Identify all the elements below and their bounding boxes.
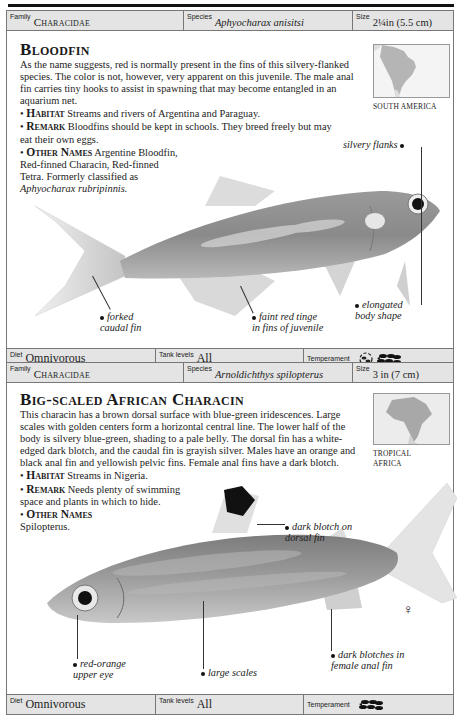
annotation-faint-red-tinge: faint red tinge in fins of juvenile xyxy=(252,311,323,333)
species-label: Species xyxy=(187,365,212,372)
family-label: Family xyxy=(10,365,31,372)
south-america-map-icon xyxy=(374,45,449,97)
diet-cell: Diet Omnivorous xyxy=(7,695,156,714)
species-cell: Species Arnoldichthys spilopterus xyxy=(184,363,353,382)
family-value: Characidae xyxy=(34,16,90,28)
annotation-silvery-flanks: silvery flanks xyxy=(343,139,407,150)
top-rule xyxy=(8,4,454,7)
leader-line xyxy=(203,601,204,669)
species-label: Species xyxy=(187,13,212,20)
species-card-big-scaled-african-characin: Family Characidae Species Arnoldichthys … xyxy=(6,362,454,715)
range-map-south-america xyxy=(373,44,450,98)
habitat-label: Habitat xyxy=(26,107,64,119)
tank-levels-label: Tank levels xyxy=(159,697,194,704)
habitat-text: Streams and rivers of Argentina and Para… xyxy=(67,108,260,119)
species-cell: Species Aphyocharax anisitsi xyxy=(184,11,353,30)
species-value: Aphyocharax anisitsi xyxy=(215,17,304,28)
size-value: 2¼in (5.5 cm) xyxy=(373,17,433,28)
family-label: Family xyxy=(10,13,31,20)
remark-line: • Remark Bloodfins should be kept in sch… xyxy=(20,120,345,145)
school-fish-icon xyxy=(359,699,385,711)
habitat-line: • Habitat Streams and rivers of Argentin… xyxy=(20,107,360,120)
big-scaled-characin-fish-illustration xyxy=(37,478,457,653)
family-cell: Family Characidae xyxy=(7,11,184,30)
africa-map-icon xyxy=(374,394,449,444)
annotation-elongated-body-shape: elongated body shape xyxy=(355,299,403,321)
annotation-dark-blotch-dorsal-fin: dark blotch on dorsal fin xyxy=(285,521,352,543)
species-header-bar: Family Characidae Species Arnoldichthys … xyxy=(7,363,453,383)
species-header-bar: Family Characidae Species Aphyocharax an… xyxy=(7,11,453,31)
leader-line xyxy=(331,609,332,651)
temperament-label: Temperament xyxy=(307,355,350,362)
leader-line xyxy=(257,524,285,525)
remark-label: Remark xyxy=(26,120,65,132)
annotation-forked-caudal-fin: forked caudal fin xyxy=(100,311,141,333)
leader-line xyxy=(421,147,422,305)
tank-levels-cell: Tank levels All xyxy=(156,695,304,714)
species-card-bloodfin: Family Characidae Species Aphyocharax an… xyxy=(6,10,454,369)
diet-label: Diet xyxy=(10,697,22,704)
temperament-label: Temperament xyxy=(307,701,350,708)
female-symbol: ♀ xyxy=(403,604,414,615)
size-label: Size xyxy=(356,365,370,372)
other-names-label: Other Names xyxy=(26,146,92,158)
species-title: Bloodfin xyxy=(20,40,90,60)
annotation-red-orange-upper-eye: red-orange upper eye xyxy=(73,658,126,680)
family-value: Characidae xyxy=(34,368,90,380)
description: As the name suggests, red is normally pr… xyxy=(20,59,360,107)
annotation-dark-blotches-anal-fin: dark blotches in female anal fin xyxy=(331,649,404,671)
bloodfin-fish-illustration xyxy=(25,166,445,316)
remark-text: Bloodfins should be kept in schools. The… xyxy=(20,121,332,144)
range-label: SOUTH AMERICA xyxy=(373,102,437,112)
temperament-cell: Temperament xyxy=(304,695,453,714)
description: This characin has a brown dorsal surface… xyxy=(20,409,362,469)
species-footer-bar: Diet Omnivorous Tank levels All Temperam… xyxy=(7,694,453,714)
leader-line xyxy=(77,615,78,659)
range-label: TROPICAL AFRICA xyxy=(373,449,411,468)
species-value: Arnoldichthys spilopterus xyxy=(215,369,323,380)
size-cell: Size 2¼in (5.5 cm) xyxy=(353,11,453,30)
annotation-large-scales: large scales xyxy=(201,667,257,678)
size-value: 3 in (7 cm) xyxy=(373,369,419,380)
diet-value: Omnivorous xyxy=(25,697,85,712)
size-label: Size xyxy=(356,13,370,20)
diet-label: Diet xyxy=(10,351,22,358)
range-map-tropical-africa xyxy=(373,393,450,445)
tank-levels-value: All xyxy=(197,697,212,712)
family-cell: Family Characidae xyxy=(7,363,184,382)
size-cell: Size 3 in (7 cm) xyxy=(353,363,453,382)
tank-levels-label: Tank levels xyxy=(159,351,194,358)
species-title: Big-scaled African Characin xyxy=(20,390,244,410)
